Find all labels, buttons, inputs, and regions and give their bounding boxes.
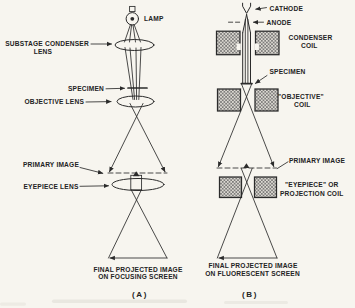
primary-image-label: PRIMARY IMAGE xyxy=(23,161,79,168)
specimen-label-arrow xyxy=(106,88,125,89)
final-image-label-line2: ON FLUORESCENT SCREEN xyxy=(205,270,300,277)
cathode-label: CATHODE xyxy=(270,5,304,12)
condenser-coil-label-line1: CONDENSER xyxy=(289,34,333,41)
condenser-coil-label-line2: COIL xyxy=(301,42,318,49)
scan-smudge xyxy=(52,300,187,304)
eyepiece-label-arrow xyxy=(80,186,109,187)
projection-coil-label-line1: "EYEPIECE" OR xyxy=(285,181,339,188)
final-image-label-line1: FINAL PROJECTED IMAGE xyxy=(208,262,297,269)
projection-coil-label-line2: PROJECTION COIL xyxy=(280,190,343,197)
anode-label: ANODE xyxy=(267,19,292,26)
panel-b-caption: (B) xyxy=(242,290,258,299)
scan-smudge xyxy=(224,301,288,304)
lamp-label: LAMP xyxy=(144,15,164,22)
pole-gap xyxy=(237,44,241,51)
scan-smudge xyxy=(0,303,26,306)
objective-coil-label-line2: COIL xyxy=(294,101,311,108)
primary-image-label: PRIMARY IMAGE xyxy=(289,157,345,164)
specimen-label: SPECIMEN xyxy=(68,85,104,92)
panel-a-caption: (A) xyxy=(132,290,148,299)
final-image-label-line1: FINAL PROJECTED IMAGE xyxy=(93,266,182,273)
condenser-lens-label-line1: SUBSTAGE CONDENSER xyxy=(5,40,89,47)
specimen-label: SPECIMEN xyxy=(270,68,306,75)
microscope-comparison-figure: LAMP SUBSTAGE CONDENSER LENS SPECIMEN OB… xyxy=(0,0,355,308)
eyepiece-lens-label: EYEPIECE LENS xyxy=(24,183,79,190)
condenser-lens-label-line2: LENS xyxy=(34,48,53,55)
objective-lens-label: OBJECTIVE LENS xyxy=(24,98,84,105)
pole-gap xyxy=(255,44,259,51)
final-image-label-line2: ON FOCUSING SCREEN xyxy=(98,273,177,280)
objective-coil-label-line1: "OBJECTIVE" xyxy=(278,93,324,100)
